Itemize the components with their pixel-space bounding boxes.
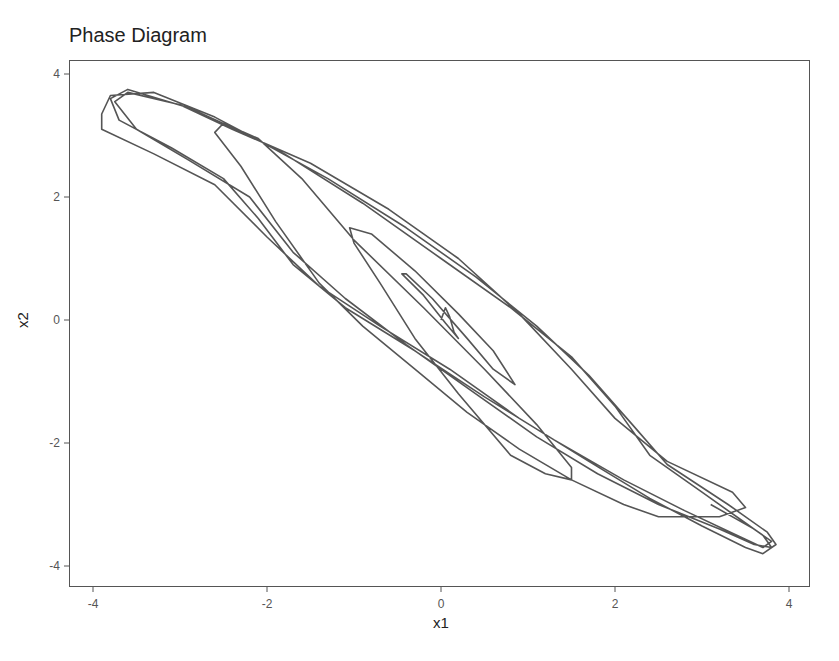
y-tick-label: 4 [53, 67, 60, 81]
y-tick-label: -2 [49, 436, 60, 450]
x-tick-label: 4 [786, 597, 793, 611]
trajectory-lines [102, 89, 776, 553]
x-tick-label: -4 [88, 597, 99, 611]
x-tick-label: 2 [612, 597, 619, 611]
y-tick-label: -4 [49, 559, 60, 573]
trajectory-line [102, 89, 776, 553]
y-tick-label: 0 [53, 313, 60, 327]
plot-area: -4-2024-4-2024 [0, 0, 839, 661]
x-tick-label: 0 [438, 597, 445, 611]
y-tick-label: 2 [53, 190, 60, 204]
x-tick-label: -2 [262, 597, 273, 611]
axis-ticks: -4-2024-4-2024 [49, 67, 792, 611]
